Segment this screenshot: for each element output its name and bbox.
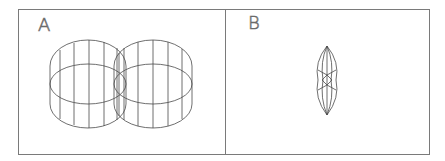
panel-b-label: B xyxy=(248,12,260,33)
panel-a-label: A xyxy=(38,14,50,35)
figure-frame xyxy=(19,10,430,155)
panel-b-intersection-solid xyxy=(317,46,337,115)
panel-a-left-cylinder xyxy=(50,40,126,128)
figure-canvas: A B xyxy=(0,0,445,161)
